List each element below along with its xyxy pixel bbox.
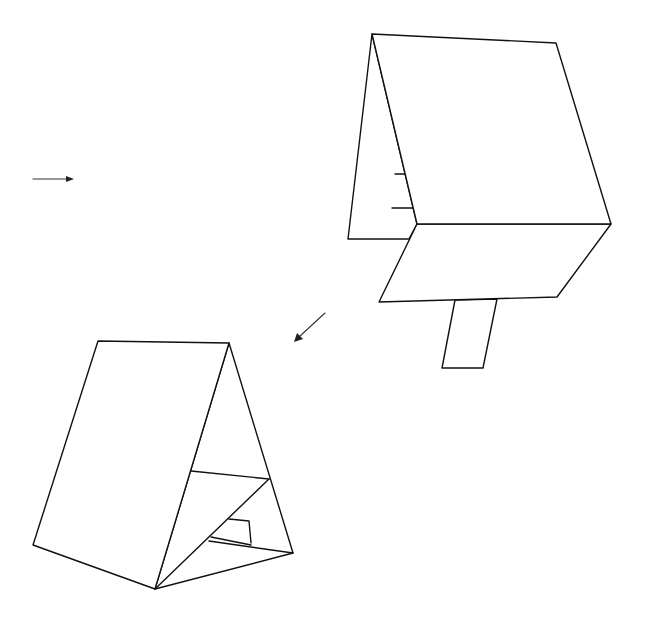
card-view-assembled [33, 341, 293, 589]
lower-flap [379, 224, 611, 302]
tab [442, 299, 497, 368]
arrow-down-left-icon [294, 313, 325, 342]
diagram-svg [0, 0, 650, 620]
arrow-right-icon [33, 176, 74, 182]
card-view-unfolded [348, 34, 611, 368]
diagram-canvas: Folding tent card assembly diagram [0, 0, 650, 620]
